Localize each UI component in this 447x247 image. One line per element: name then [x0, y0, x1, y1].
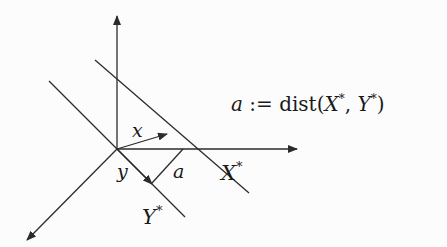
distance-diagram: x y a X* Y* a := dist(X*, Y*)	[0, 0, 447, 247]
label-x-star: X*	[219, 159, 243, 185]
label-x: x	[132, 119, 143, 141]
label-y: y	[116, 160, 128, 182]
label-y-star: Y*	[142, 203, 163, 229]
distance-definition: a := dist(X*, Y*)	[231, 92, 384, 116]
diagonal-axis	[27, 149, 117, 240]
label-a: a	[173, 160, 184, 182]
